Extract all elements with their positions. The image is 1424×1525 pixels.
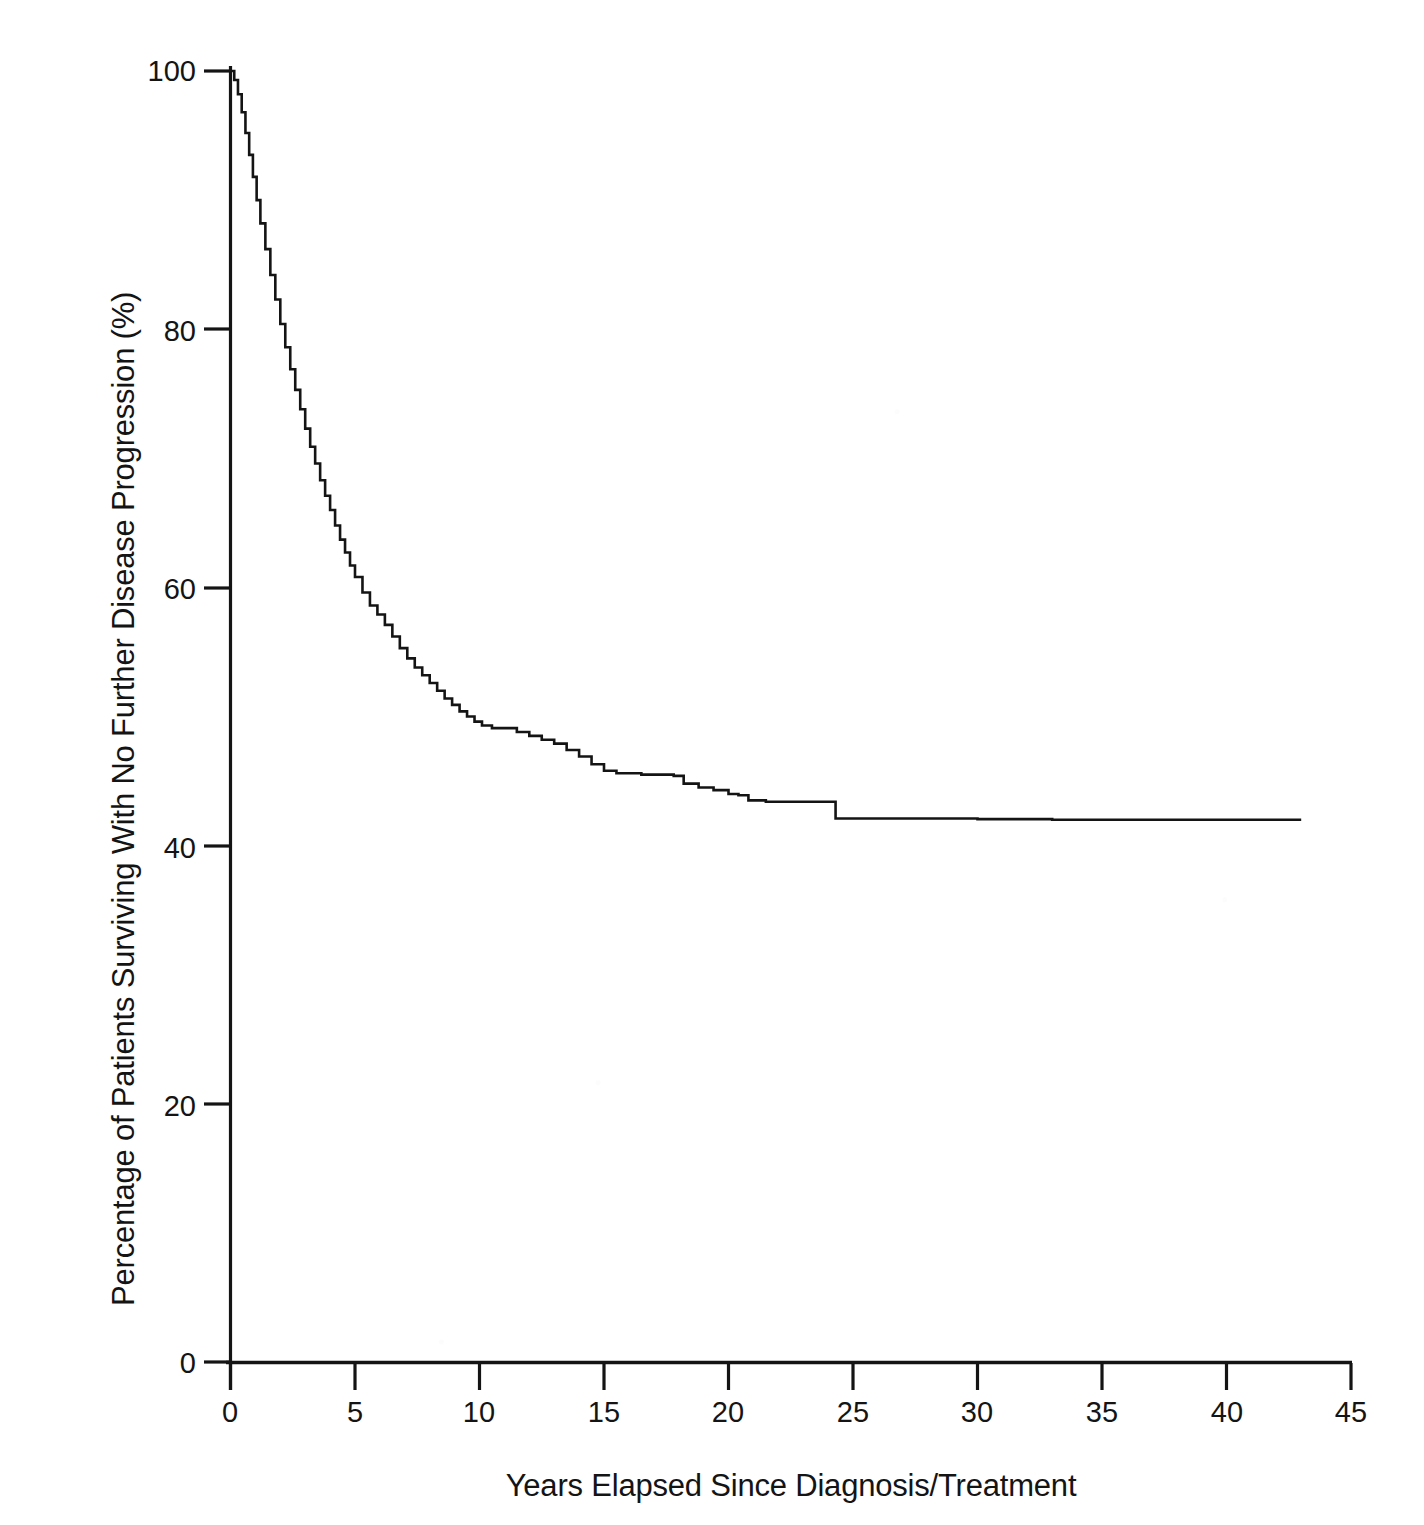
x-axis-ticks (231, 1363, 1352, 1390)
y-axis-ticks (204, 71, 231, 1362)
figure-canvas: 100 80 60 40 20 0 0 5 10 15 20 25 30 35 … (0, 0, 1424, 1525)
plot-area (0, 0, 1424, 1525)
survival-curve (231, 71, 1302, 820)
